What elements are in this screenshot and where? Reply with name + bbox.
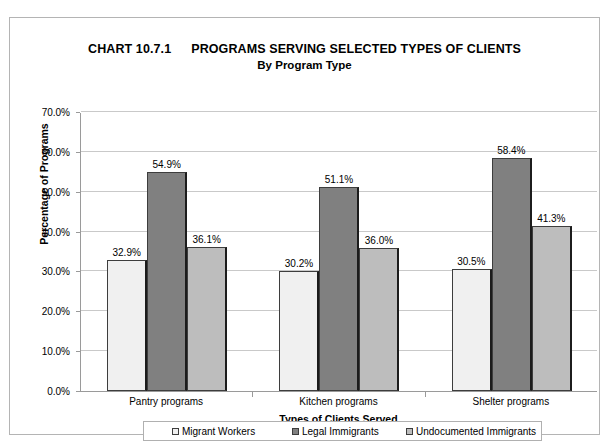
plot-area: 32.9%54.9%36.1%30.2%51.1%36.0%30.5%58.4%…	[80, 113, 597, 392]
y-axis-tick-label: 70.0%	[42, 108, 70, 118]
legend-item[interactable]: Migrant Workers	[172, 426, 255, 437]
bar-value-label: 54.9%	[152, 159, 180, 170]
y-axis-labels: 0.0%10.0%20.0%30.0%40.0%50.0%60.0%70.0%	[10, 113, 76, 392]
x-axis-tick-mark	[425, 392, 426, 397]
legend-label: Undocumented Immigrants	[416, 426, 536, 437]
chart-frame: CHART 10.7.1PROGRAMS SERVING SELECTED TY…	[9, 17, 600, 435]
chart-title-main: PROGRAMS SERVING SELECTED TYPES OF CLIEN…	[191, 42, 521, 56]
y-axis-tick-label: 0.0%	[47, 387, 70, 397]
legend-swatch-icon	[406, 428, 413, 435]
bar-value-label: 58.4%	[497, 145, 525, 156]
bar[interactable]: 58.4%	[492, 158, 532, 391]
bar-value-label: 36.1%	[192, 234, 220, 245]
bar[interactable]: 36.1%	[187, 247, 227, 391]
y-axis-tick-label: 10.0%	[42, 347, 70, 357]
x-axis-tick-label: Shelter programs	[472, 396, 549, 407]
legend-label: Migrant Workers	[182, 426, 255, 437]
legend-swatch-icon	[172, 428, 179, 435]
bar-value-label: 30.5%	[457, 256, 485, 267]
bar-group-shelter-programs: 30.5%58.4%41.3%	[426, 113, 598, 391]
y-axis-tick-label: 30.0%	[42, 267, 70, 277]
bar-value-label: 32.9%	[112, 247, 140, 258]
chart-subtitle: By Program Type	[10, 58, 599, 73]
chart-legend: Migrant WorkersLegal ImmigrantsUndocumen…	[143, 421, 542, 441]
y-axis-tick-label: 20.0%	[42, 307, 70, 317]
y-axis-tick-label: 40.0%	[42, 228, 70, 238]
y-axis-tick-label: 50.0%	[42, 188, 70, 198]
x-axis-tick-mark	[252, 392, 253, 397]
legend-label: Legal Immigrants	[302, 426, 379, 437]
bar[interactable]: 54.9%	[147, 172, 187, 391]
bar[interactable]: 30.5%	[452, 269, 492, 391]
bar[interactable]: 32.9%	[107, 260, 147, 391]
chart-title: CHART 10.7.1PROGRAMS SERVING SELECTED TY…	[10, 41, 599, 57]
legend-item[interactable]: Undocumented Immigrants	[406, 426, 536, 437]
legend-item[interactable]: Legal Immigrants	[292, 426, 379, 437]
x-axis-tick-label: Kitchen programs	[299, 396, 377, 407]
chart-number: CHART 10.7.1	[88, 42, 171, 56]
bar-value-label: 41.3%	[537, 213, 565, 224]
bar-group-pantry-programs: 32.9%54.9%36.1%	[81, 113, 253, 391]
bar[interactable]: 51.1%	[319, 187, 359, 391]
chart-title-block: CHART 10.7.1PROGRAMS SERVING SELECTED TY…	[10, 41, 599, 73]
x-axis-tick-label: Pantry programs	[129, 396, 203, 407]
bar-value-label: 30.2%	[285, 258, 313, 269]
bar[interactable]: 30.2%	[279, 271, 319, 391]
x-axis-labels: Pantry programsKitchen programsShelter p…	[80, 396, 597, 412]
bar[interactable]: 41.3%	[532, 226, 572, 391]
gridline	[81, 111, 597, 112]
bar-group-kitchen-programs: 30.2%51.1%36.0%	[253, 113, 425, 391]
bar-value-label: 36.0%	[365, 235, 393, 246]
legend-swatch-icon	[292, 428, 299, 435]
bar-value-label: 51.1%	[325, 174, 353, 185]
bar[interactable]: 36.0%	[359, 248, 399, 391]
y-axis-tick-label: 60.0%	[42, 148, 70, 158]
